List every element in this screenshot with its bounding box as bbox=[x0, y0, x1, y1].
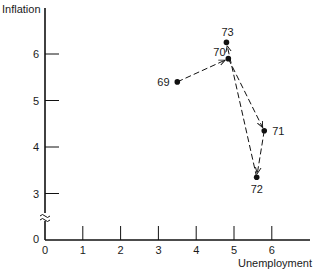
y-tick-label: 4 bbox=[33, 141, 39, 153]
y-tick-label: 5 bbox=[33, 95, 39, 107]
y-axis-title: Inflation bbox=[2, 3, 41, 15]
data-point-label: 69 bbox=[157, 76, 169, 88]
data-point-label: 71 bbox=[272, 125, 284, 137]
data-point-70 bbox=[226, 56, 232, 62]
data-point-73 bbox=[224, 40, 230, 46]
x-tick-label: 5 bbox=[231, 244, 237, 256]
y-ticks: 3456 bbox=[33, 48, 59, 200]
x-tick-label: 6 bbox=[269, 244, 275, 256]
trajectory-arrow bbox=[257, 131, 264, 174]
data-point-label: 70 bbox=[213, 46, 225, 58]
x-ticks: 0123456 bbox=[42, 226, 275, 256]
data-point-label: 73 bbox=[221, 26, 233, 38]
inflation-unemployment-chart: 3456 0123456 Inflation Unemployment 0 69… bbox=[0, 0, 316, 272]
data-point-71 bbox=[261, 128, 267, 134]
x-tick-label: 0 bbox=[42, 244, 48, 256]
data-point-72 bbox=[254, 174, 260, 180]
trajectory-arrow bbox=[228, 59, 262, 128]
data-point-69 bbox=[175, 79, 181, 85]
trajectory-arrow bbox=[227, 46, 256, 177]
x-tick-label: 4 bbox=[193, 244, 199, 256]
y-tick-label: 6 bbox=[33, 48, 39, 60]
x-tick-label: 3 bbox=[155, 244, 161, 256]
trajectory-arrow bbox=[177, 60, 225, 82]
x-axis-title: Unemployment bbox=[238, 257, 312, 269]
trajectory-paths bbox=[177, 46, 264, 177]
x-tick-label: 2 bbox=[118, 244, 124, 256]
data-point-label: 72 bbox=[251, 183, 263, 195]
y-zero-label: 0 bbox=[33, 233, 39, 245]
data-points: 6970717273 bbox=[157, 26, 284, 195]
x-tick-label: 1 bbox=[80, 244, 86, 256]
y-tick-label: 3 bbox=[33, 188, 39, 200]
